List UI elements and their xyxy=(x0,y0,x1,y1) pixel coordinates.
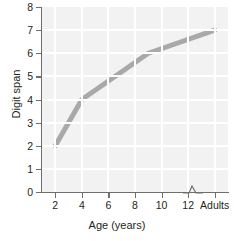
x-axis-tick xyxy=(135,193,136,198)
gridline-horizontal xyxy=(42,122,228,124)
y-axis-tick xyxy=(36,76,41,77)
y-axis-tick-label: 6 xyxy=(21,48,33,59)
y-axis-line xyxy=(41,7,42,193)
axis-break-zigzag-icon xyxy=(183,183,203,195)
y-axis-tick xyxy=(36,146,41,147)
gridline-horizontal xyxy=(42,168,228,170)
x-axis-tick-label: 4 xyxy=(79,200,85,211)
x-axis-tick xyxy=(55,193,56,198)
gridline-horizontal xyxy=(42,145,228,147)
y-axis-tick-label: 4 xyxy=(21,95,33,106)
x-axis-tick xyxy=(215,193,216,198)
y-axis-tick-label: 7 xyxy=(21,25,33,36)
x-axis-tick xyxy=(82,193,83,198)
x-axis-tick-label: 10 xyxy=(156,200,168,211)
y-axis-tick-label: 2 xyxy=(21,141,33,152)
y-axis-tick-label: 5 xyxy=(21,71,33,82)
y-axis-tick xyxy=(36,53,41,54)
x-axis-title: Age (years) xyxy=(0,219,234,231)
x-axis-tick-label: 8 xyxy=(132,200,138,211)
y-axis-tick xyxy=(36,7,41,8)
x-axis-tick-label: 12 xyxy=(182,200,194,211)
y-axis-tick-label: 0 xyxy=(21,187,33,198)
x-axis-tick-label: Adults xyxy=(200,200,229,211)
gridline-horizontal xyxy=(42,29,228,31)
y-axis-tick xyxy=(36,30,41,31)
y-axis-tick-label: 8 xyxy=(21,2,33,13)
y-axis-tick xyxy=(36,100,41,101)
y-axis-tick-label: 1 xyxy=(21,164,33,175)
gridline-horizontal xyxy=(42,75,228,77)
gridline-horizontal xyxy=(42,52,228,54)
y-axis-tick-label: 3 xyxy=(21,118,33,129)
gridline-horizontal xyxy=(42,99,228,101)
y-axis-tick xyxy=(36,169,41,170)
x-axis-tick-label: 2 xyxy=(52,200,58,211)
y-axis-tick xyxy=(36,192,41,193)
x-axis-tick xyxy=(108,193,109,198)
x-axis-tick xyxy=(162,193,163,198)
y-axis-tick xyxy=(36,123,41,124)
digit-span-line-chart: 24681012Adults012345678 Age (years) Digi… xyxy=(0,0,234,241)
plot-area xyxy=(42,7,228,192)
x-axis-tick-label: 6 xyxy=(106,200,112,211)
y-axis-title: Digit span xyxy=(10,34,22,154)
